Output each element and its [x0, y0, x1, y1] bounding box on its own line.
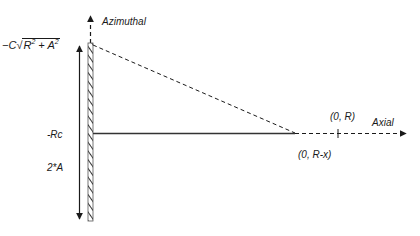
rc-label: -Rc [47, 130, 63, 140]
two-a-label: 2*A [47, 163, 63, 173]
diagonal-line [93, 45, 295, 133]
axial-label: Axial [372, 118, 394, 128]
azimuthal-label: Azimuthal [102, 17, 146, 27]
point-r-label: (0, R) [330, 112, 355, 122]
diagram-lines [0, 0, 420, 236]
top-formula: −C√R2 + A2 [2, 38, 60, 51]
diagram-canvas: Azimuthal Axial −C√R2 + A2 -Rc 2*A (0, R… [0, 0, 420, 236]
point-r-minus-x-label: (0, R-x) [298, 150, 331, 160]
wall [88, 43, 93, 221]
